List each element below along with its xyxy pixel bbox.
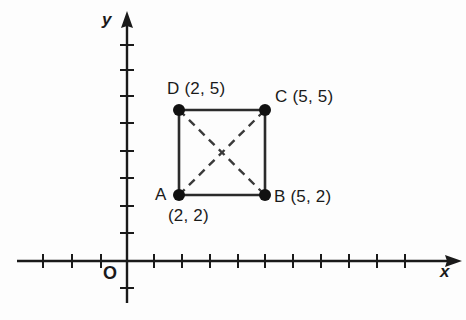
- y-axis: [120, 11, 134, 303]
- point-c-label: C (5, 5): [275, 88, 333, 105]
- square-diagonals: [179, 110, 265, 195]
- point-a-coords-label: (2, 2): [168, 207, 209, 224]
- coordinate-plane-figure: D (2, 5) C (5, 5) A (2, 2) B (5, 2) y x …: [0, 0, 466, 320]
- y-axis-label: y: [102, 11, 112, 28]
- origin-label: O: [103, 264, 117, 282]
- point-c-dot: [259, 104, 271, 116]
- x-axis-label: x: [440, 263, 450, 280]
- point-b-dot: [259, 189, 271, 201]
- point-a-label: A: [155, 186, 167, 203]
- point-d-dot: [173, 104, 185, 116]
- coordinate-plane-svg: [0, 0, 466, 320]
- point-d-label: D (2, 5): [167, 80, 225, 97]
- point-b-label: B (5, 2): [274, 188, 331, 205]
- point-a-dot: [173, 189, 185, 201]
- x-axis: [17, 254, 462, 268]
